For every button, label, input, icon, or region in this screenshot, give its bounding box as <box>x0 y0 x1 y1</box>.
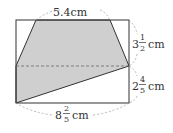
top-label: 5.4cm <box>53 6 88 19</box>
shaded-region <box>16 20 129 103</box>
svg-text:3: 3 <box>132 38 139 51</box>
svg-text:5: 5 <box>140 86 145 95</box>
svg-text:2: 2 <box>140 44 145 53</box>
svg-text:1: 1 <box>140 33 145 42</box>
right-upper-label: 3 1 2 cm <box>132 33 165 53</box>
svg-text:5: 5 <box>64 115 69 124</box>
svg-text:cm: cm <box>72 109 89 122</box>
svg-text:cm: cm <box>148 38 165 51</box>
svg-text:4: 4 <box>140 75 145 84</box>
svg-text:2: 2 <box>64 104 69 113</box>
geometry-diagram: 5.4cm 3 1 2 cm 2 4 5 cm 8 2 5 cm <box>0 0 173 133</box>
svg-text:cm: cm <box>148 80 165 93</box>
svg-text:2: 2 <box>132 80 139 93</box>
right-lower-label: 2 4 5 cm <box>132 75 165 95</box>
bottom-label: 8 2 5 cm <box>55 104 89 124</box>
svg-text:8: 8 <box>55 109 62 122</box>
